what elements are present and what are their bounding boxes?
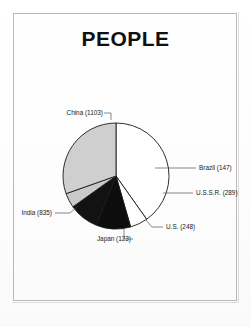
slice-label-china: China (1103) [67, 109, 103, 117]
leader-line-us [146, 220, 163, 227]
slice-label-ussr: U.S.S.R. (289) [196, 189, 238, 197]
leader-line-china [104, 113, 111, 120]
pie-chart: China (1103) Brazil (147) U.S.S.R. (289)… [0, 0, 251, 327]
pie-slice-group [63, 123, 169, 229]
slice-label-us: U.S. (248) [166, 223, 195, 231]
slice-label-brazil: Brazil (147) [199, 164, 232, 172]
pie-chart-svg: China (1103) Brazil (147) U.S.S.R. (289)… [0, 0, 251, 327]
slice-label-japan: Japan (123) [97, 235, 131, 243]
slice-label-india: India (835) [21, 209, 52, 217]
scanned-page: PEOPLE China (1103) Brazil (147) U.S.S.R… [0, 0, 251, 327]
